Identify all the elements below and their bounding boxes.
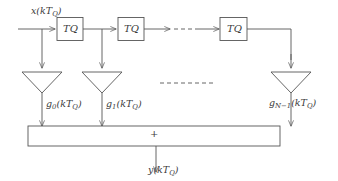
delay-block-1-label: TQ (124, 24, 139, 34)
amplifier-triangle-0 (22, 72, 62, 93)
input-signal-label: x(kTQ) (31, 6, 62, 18)
amplifier-triangle-1 (82, 72, 122, 93)
fir-filter-block-diagram: x(kTQ) TQ TQ TQ g0(kTQ) g1(kTQ) gN−1(kTQ… (0, 0, 338, 181)
gain-label-0: g0(kTQ) (46, 99, 82, 111)
gain-label-1: g1(kTQ) (106, 99, 142, 111)
summing-operator-label: + (150, 129, 158, 139)
gain-label-n-1: gN−1(kTQ) (269, 98, 316, 110)
delay-block-2-label: TQ (227, 24, 242, 34)
delay-block-0-label: TQ (63, 24, 78, 34)
diagram-canvas (0, 0, 338, 181)
output-signal-label: y(kTQ) (148, 165, 179, 177)
amplifier-triangle-n-1 (271, 72, 311, 93)
